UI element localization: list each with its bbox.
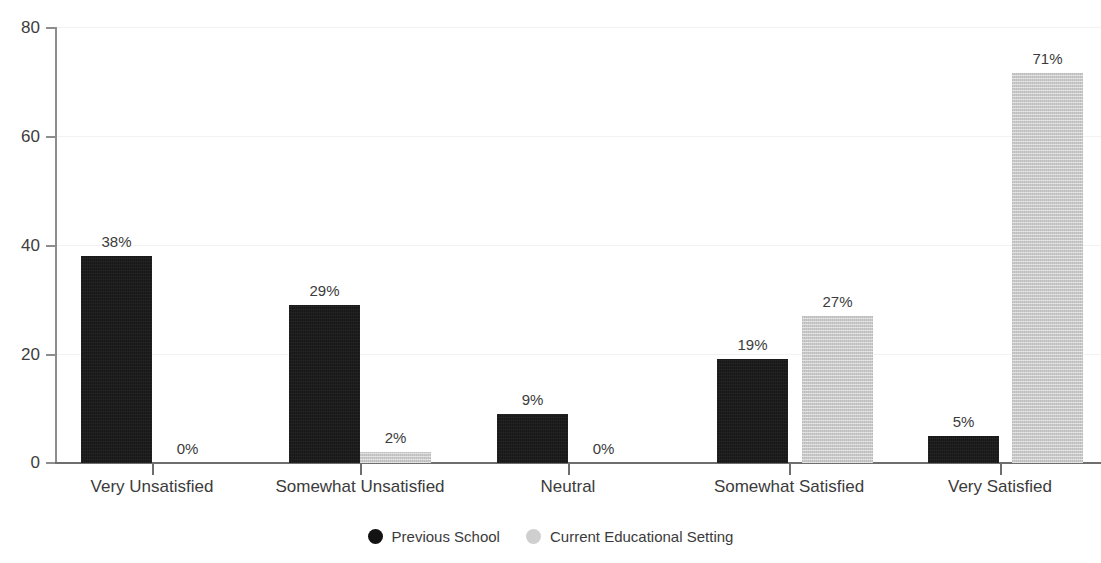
legend-label-current-educational-setting: Current Educational Setting [550,529,733,544]
bar-value-previous-school-very-satisfied: 5% [928,414,999,429]
bar-value-previous-school-somewhat-unsatisfied: 29% [289,283,360,298]
chart-legend: Previous School Current Educational Sett… [0,529,1101,544]
x-tick-mark-very-satisfied [1000,464,1002,475]
bar-previous-school-very-unsatisfied [81,256,152,463]
x-tick-mark-very-unsatisfied [152,464,154,475]
legend-label-previous-school: Previous School [392,529,500,544]
bar-current-setting-somewhat-unsatisfied [360,452,431,463]
x-tick-label-neutral: Neutral [478,478,658,497]
bars-layer: 38% 0% 29% 2% 9% 0% 19% 27% 5% 71% [0,0,1101,463]
bar-value-current-setting-somewhat-satisfied: 27% [802,294,873,309]
x-tick-label-somewhat-unsatisfied: Somewhat Unsatisfied [250,478,470,497]
legend-item-previous-school[interactable]: Previous School [368,529,500,544]
x-tick-mark-somewhat-satisfied [789,464,791,475]
bar-previous-school-very-satisfied [928,436,999,463]
legend-swatch-circle-icon [368,529,383,544]
x-tick-label-very-unsatisfied: Very Unsatisfied [52,478,252,497]
legend-swatch-circle-icon [526,529,541,544]
legend-item-current-educational-setting[interactable]: Current Educational Setting [526,529,733,544]
bar-previous-school-somewhat-satisfied [717,359,788,463]
bar-current-setting-somewhat-satisfied [802,316,873,463]
x-tick-mark-somewhat-unsatisfied [360,464,362,475]
x-tick-label-somewhat-satisfied: Somewhat Satisfied [679,478,899,497]
bar-value-previous-school-neutral: 9% [497,392,568,407]
x-tick-mark-neutral [568,464,570,475]
bar-previous-school-neutral [497,414,568,463]
bar-value-previous-school-somewhat-satisfied: 19% [717,337,788,352]
x-tick-label-very-satisfied: Very Satisfied [900,478,1100,497]
bar-current-setting-very-satisfied [1012,73,1083,463]
bar-value-current-setting-somewhat-unsatisfied: 2% [360,430,431,445]
bar-value-current-setting-very-unsatisfied: 0% [152,441,223,456]
bar-value-current-setting-neutral: 0% [568,441,639,456]
bar-value-current-setting-very-satisfied: 71% [1012,51,1083,66]
bar-value-previous-school-very-unsatisfied: 38% [81,234,152,249]
bar-previous-school-somewhat-unsatisfied [289,305,360,463]
satisfaction-bar-chart: 80 60 40 20 0 38% 0% 29% 2% 9% 0% 19% 27… [0,0,1101,563]
